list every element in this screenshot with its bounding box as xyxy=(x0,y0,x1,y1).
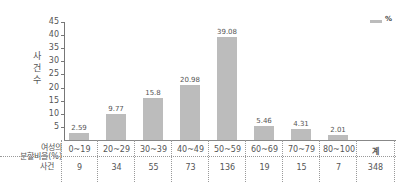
y-tick-label: 25 xyxy=(41,70,59,78)
y-tick xyxy=(61,88,65,89)
y-tick xyxy=(61,22,65,23)
category-cell: 60~69 xyxy=(246,145,283,154)
bar xyxy=(328,135,348,140)
y-tick-label: 15 xyxy=(41,97,59,105)
category-cell: 50~59 xyxy=(209,145,246,154)
y-axis-line xyxy=(64,22,65,140)
category-cell: 30~39 xyxy=(135,145,172,154)
y-axis-label: 사 건 수 xyxy=(32,50,42,86)
row-header-ratio: 여성의 분할비율(%) xyxy=(2,143,62,161)
bar xyxy=(143,98,163,140)
y-tick xyxy=(61,74,65,75)
bar xyxy=(180,85,200,140)
bar-value-label: 39.08 xyxy=(209,28,245,36)
y-tick xyxy=(61,114,65,115)
y-tick-label: 10 xyxy=(41,110,59,118)
legend-label: % xyxy=(385,15,392,23)
y-tick-label: 30 xyxy=(41,57,59,65)
bar xyxy=(291,129,311,140)
cases-cell: 55 xyxy=(135,163,172,172)
cases-cell: 73 xyxy=(172,163,209,172)
cases-cell: 34 xyxy=(98,163,135,172)
bar-value-label: 20.98 xyxy=(172,76,208,84)
category-cell: 80~100 xyxy=(320,145,358,154)
cases-cell: 15 xyxy=(283,163,320,172)
x-axis-baseline xyxy=(64,140,396,141)
cases-cell: 7 xyxy=(320,163,357,172)
row-header-cases: 사건 xyxy=(2,162,54,171)
bar-value-label: 4.31 xyxy=(283,120,319,128)
legend-swatch xyxy=(370,20,382,23)
total-cases-cell: 348 xyxy=(357,163,394,172)
bar-value-label: 9.77 xyxy=(98,105,134,113)
y-tick-label: 35 xyxy=(41,44,59,52)
y-tick-label: 20 xyxy=(41,84,59,92)
row-header-line: 여성의 xyxy=(2,143,62,152)
total-header-cell: 계 xyxy=(357,145,394,156)
bar xyxy=(217,37,237,140)
y-tick xyxy=(61,101,65,102)
category-cell: 0~19 xyxy=(61,145,98,154)
y-tick-label: 45 xyxy=(41,18,59,26)
bar xyxy=(69,133,89,140)
y-tick xyxy=(61,35,65,36)
y-tick xyxy=(61,61,65,62)
column-divider xyxy=(394,140,395,182)
category-cell: 70~79 xyxy=(283,145,320,154)
cases-cell: 136 xyxy=(209,163,246,172)
bar xyxy=(106,114,126,140)
cases-cell: 9 xyxy=(61,163,98,172)
y-tick-label: 5 xyxy=(41,123,59,131)
bar xyxy=(254,126,274,140)
bar-value-label: 5.46 xyxy=(246,117,282,125)
y-tick-label: 40 xyxy=(41,31,59,39)
bar-value-label: 15.8 xyxy=(135,89,171,97)
y-tick xyxy=(61,48,65,49)
category-cell: 40~49 xyxy=(172,145,209,154)
bar-value-label: 2.59 xyxy=(61,124,97,132)
bar-value-label: 2.01 xyxy=(320,126,356,134)
cases-cell: 19 xyxy=(246,163,283,172)
row-divider xyxy=(0,156,396,157)
category-cell: 20~29 xyxy=(98,145,135,154)
